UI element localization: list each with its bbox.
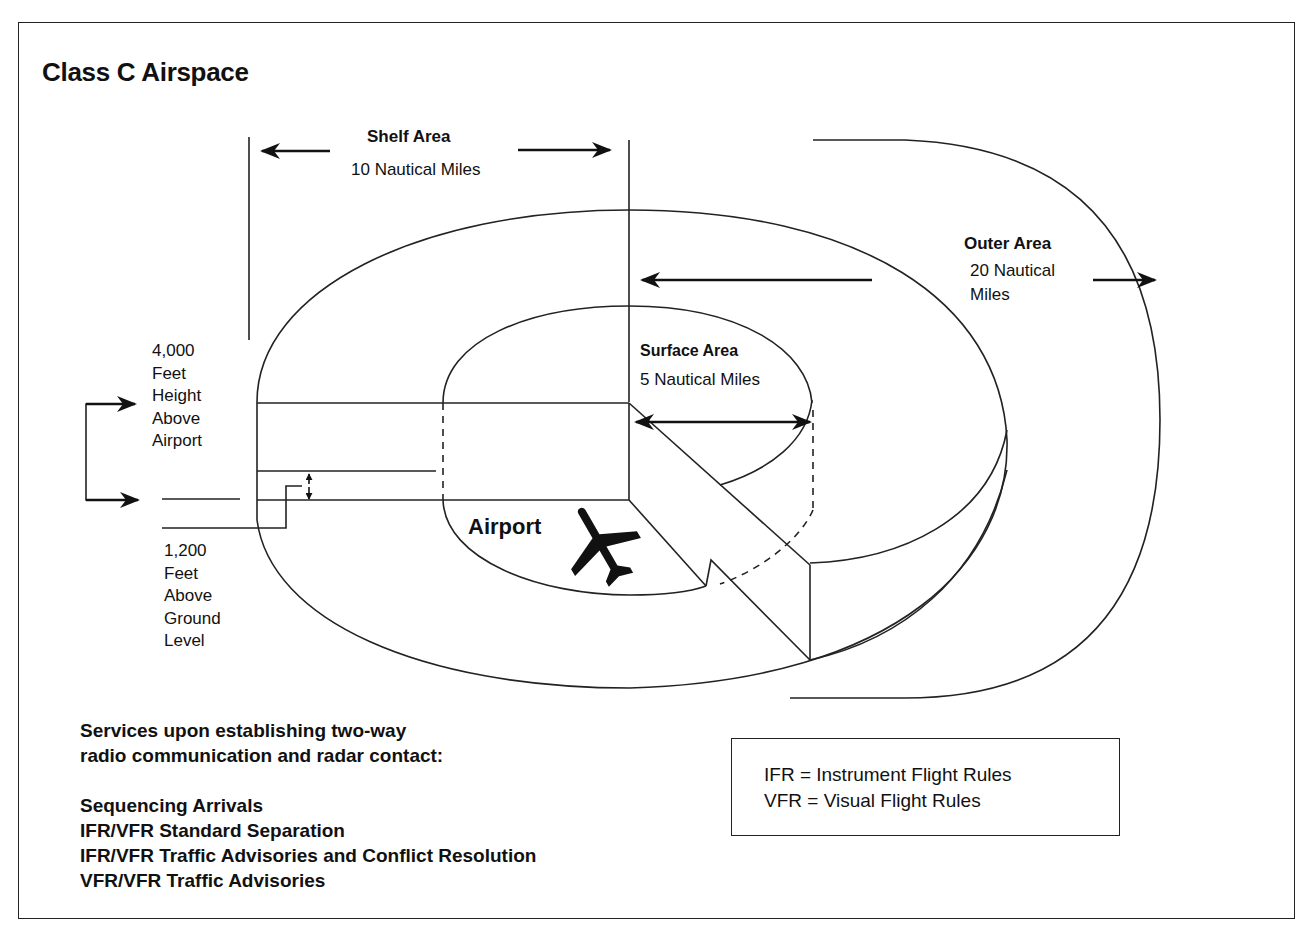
shelf-ring-bottom [810, 470, 1007, 660]
shelf-area-distance: 10 Nautical Miles [351, 160, 480, 180]
floor-line-3: Above [164, 585, 221, 608]
service-item: IFR/VFR Traffic Advisories and Conflict … [80, 843, 536, 868]
floor-line-2: Feet [164, 563, 221, 586]
altitude-bracket [86, 404, 108, 500]
services-intro-2: radio communication and radar contact: [80, 743, 536, 768]
service-item: VFR/VFR Traffic Advisories [80, 868, 536, 893]
outer-area-boundary [790, 140, 1160, 698]
service-item: Sequencing Arrivals [80, 793, 536, 818]
ceiling-line-5: Airport [152, 430, 202, 453]
floor-line-1: 1,200 [164, 540, 221, 563]
floor-line-4: Ground [164, 608, 221, 631]
outer-area-distance-line2: Miles [970, 285, 1010, 305]
ceiling-line-1: 4,000 [152, 340, 202, 363]
airplane-icon [547, 489, 654, 598]
ceiling-line-3: Height [152, 385, 202, 408]
legend-vfr: VFR = Visual Flight Rules [764, 789, 981, 813]
services-intro-1: Services upon establishing two-way [80, 718, 536, 743]
legend-box: IFR = Instrument Flight Rules VFR = Visu… [731, 738, 1120, 836]
surface-area-label: Surface Area [640, 342, 738, 360]
ceiling-label: 4,000 Feet Height Above Airport [152, 340, 202, 453]
service-item: IFR/VFR Standard Separation [80, 818, 536, 843]
shelf-area-label: Shelf Area [367, 127, 450, 147]
shelf-ellipse-right [257, 440, 1007, 688]
page-title: Class C Airspace [42, 58, 249, 88]
outer-area-label: Outer Area [964, 234, 1051, 254]
services-list: Services upon establishing two-way radio… [80, 718, 536, 893]
legend-ifr: IFR = Instrument Flight Rules [764, 763, 1012, 787]
ceiling-line-2: Feet [152, 363, 202, 386]
floor-line-5: Level [164, 630, 221, 653]
airport-label: Airport [468, 514, 541, 539]
ceiling-line-4: Above [152, 408, 202, 431]
surface-area-distance: 5 Nautical Miles [640, 370, 760, 390]
floor-label: 1,200 Feet Above Ground Level [164, 540, 221, 653]
outer-area-distance-line1: 20 Nautical [970, 261, 1055, 281]
